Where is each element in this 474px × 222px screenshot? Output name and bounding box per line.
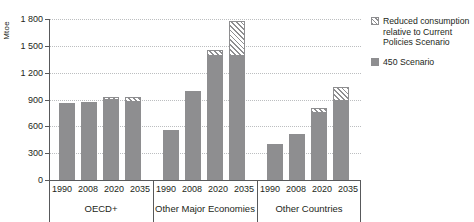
- y-axis-tick: [45, 73, 49, 74]
- group-separator: [49, 181, 50, 222]
- y-axis-tick-label: 1 800: [20, 14, 43, 24]
- bar-segment-reduced-consumption: [229, 21, 245, 56]
- x-axis-tick-label: 2035: [338, 184, 358, 194]
- category-group-label: OECD+: [49, 203, 153, 214]
- bar-segment-450-scenario: [163, 130, 179, 180]
- y-axis-tick-label: 0: [38, 175, 43, 185]
- y-axis-tick-label: 1 200: [20, 68, 43, 78]
- chart-legend: Reduced consumption relative to Current …: [371, 16, 474, 76]
- category-group: 1990200820202035OECD+: [49, 181, 153, 222]
- bar-segment-reduced-consumption: [125, 97, 141, 102]
- category-group: 1990200820202035Other Major Economies: [153, 181, 257, 222]
- category-year-labels: 1990200820202035: [49, 184, 153, 194]
- category-axis-band: 1990200820202035OECD+1990200820202035Oth…: [49, 181, 361, 222]
- category-year-labels: 1990200820202035: [153, 184, 257, 194]
- group-separator: [360, 181, 361, 222]
- bar-segment-450-scenario: [103, 100, 119, 180]
- group-separator: [153, 181, 154, 222]
- y-axis-tick-label: 900: [28, 95, 43, 105]
- x-axis-tick-label: 2035: [130, 184, 150, 194]
- y-axis-tick: [45, 100, 49, 101]
- x-axis-tick-label: 1990: [52, 184, 72, 194]
- x-axis-tick-label: 2008: [286, 184, 306, 194]
- legend-label-reduced-consumption: Reduced consumption relative to Current …: [383, 16, 474, 48]
- bar-segment-450-scenario: [81, 102, 97, 180]
- bar-segment-reduced-consumption: [311, 108, 327, 113]
- legend-item-450-scenario: 450 Scenario: [371, 57, 474, 68]
- bar-segment-450-scenario: [185, 91, 201, 180]
- x-axis-tick-label: 2020: [104, 184, 124, 194]
- x-axis-tick-label: 2008: [182, 184, 202, 194]
- group-separator: [257, 181, 258, 222]
- bar-segment-reduced-consumption: [103, 97, 119, 100]
- y-axis-tick: [45, 153, 49, 154]
- y-axis-tick: [45, 46, 49, 47]
- y-axis-title: Mtoe: [2, 11, 11, 51]
- bar-segment-450-scenario: [125, 102, 141, 180]
- x-axis-tick-label: 2008: [78, 184, 98, 194]
- bar-segment-reduced-consumption: [333, 87, 349, 101]
- gridline: [50, 100, 361, 101]
- chart-figure: Mtoe 03006009001 2001 5001 800 199020082…: [0, 0, 474, 222]
- bar-segment-reduced-consumption: [207, 50, 223, 56]
- x-axis-tick-label: 1990: [260, 184, 280, 194]
- hatched-swatch-icon: [371, 17, 379, 25]
- gridline: [50, 46, 361, 47]
- bar-segment-450-scenario: [311, 113, 327, 180]
- y-axis-tick-label: 300: [28, 148, 43, 158]
- legend-label-450-scenario: 450 Scenario: [383, 57, 434, 68]
- x-axis-tick-label: 1990: [156, 184, 176, 194]
- category-group: 1990200820202035Other Countries: [257, 181, 361, 222]
- bar-segment-450-scenario: [207, 56, 223, 180]
- y-axis-tick-label: 600: [28, 121, 43, 131]
- x-axis-tick-label: 2020: [312, 184, 332, 194]
- bar-segment-450-scenario: [267, 144, 283, 180]
- bar-segment-450-scenario: [289, 134, 305, 180]
- gridline: [50, 73, 361, 74]
- bar-segment-450-scenario: [229, 56, 245, 180]
- y-axis-tick: [45, 126, 49, 127]
- y-axis-tick-label: 1 500: [20, 41, 43, 51]
- gridline: [50, 19, 361, 20]
- category-year-labels: 1990200820202035: [257, 184, 361, 194]
- x-axis-tick-label: 2020: [208, 184, 228, 194]
- y-axis-tick: [45, 19, 49, 20]
- solid-swatch-icon: [371, 58, 379, 66]
- plot-area: 03006009001 2001 5001 800: [49, 19, 361, 181]
- bar-segment-450-scenario: [333, 101, 349, 180]
- category-group-label: Other Major Economies: [153, 203, 257, 214]
- bar-segment-450-scenario: [59, 103, 75, 180]
- category-group-label: Other Countries: [257, 203, 361, 214]
- legend-item-reduced-consumption: Reduced consumption relative to Current …: [371, 16, 474, 48]
- x-axis-tick-label: 2035: [234, 184, 254, 194]
